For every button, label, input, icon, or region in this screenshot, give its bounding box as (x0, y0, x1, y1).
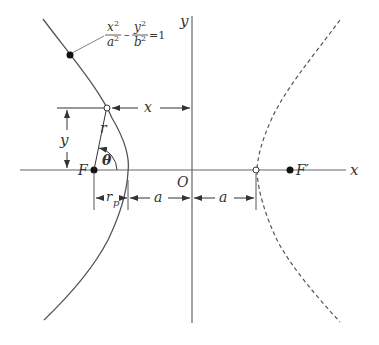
svg-text:x: x (107, 20, 114, 34)
a-right-label: a (219, 189, 227, 205)
rp-subscript: p (113, 197, 120, 208)
svg-text:2: 2 (114, 34, 119, 43)
focus-left-label: F (77, 162, 89, 178)
svg-text:2: 2 (114, 19, 119, 28)
angle-label: θ (102, 152, 112, 168)
svg-text:y: y (133, 20, 141, 34)
focus-right-icon (287, 167, 294, 174)
equation-pointer-line (72, 36, 104, 53)
dist-x-label: x (144, 99, 152, 115)
focus-right-label: F′ (295, 162, 310, 178)
svg-text:–: – (124, 28, 130, 41)
polar-point-icon (104, 105, 110, 111)
svg-text:=1: =1 (149, 29, 165, 42)
right-vertex-icon (253, 167, 259, 173)
radius-label: r (100, 120, 108, 136)
x-axis-label: x (350, 161, 359, 179)
origin-label: O (177, 174, 189, 190)
svg-text:2: 2 (141, 34, 146, 43)
rp-label: r (106, 189, 113, 204)
curve-point-icon (67, 52, 74, 59)
y-axis-label: y (179, 12, 189, 30)
svg-text:2: 2 (141, 19, 146, 28)
dist-y-label: y (59, 131, 69, 149)
a-left-label: a (154, 189, 162, 205)
hyperbola-diagram: y x O F F′ x y r θ r p a a x 2 a 2 – y 2… (0, 0, 379, 345)
hyperbola-equation: x 2 a 2 – y 2 b 2 =1 (105, 19, 165, 49)
